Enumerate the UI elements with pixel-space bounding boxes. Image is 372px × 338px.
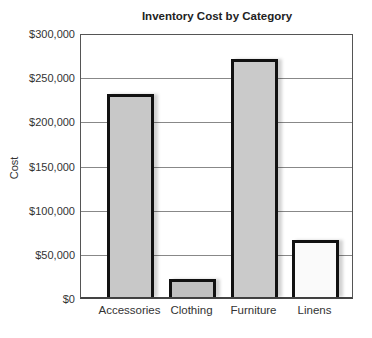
y-tick-label: $50,000 [35,249,75,261]
x-tick-label: Accessories [99,304,161,316]
y-tick-label: $150,000 [29,161,75,173]
y-tick-label: $250,000 [29,72,75,84]
chart-title: Inventory Cost by Category [80,10,354,22]
y-tick-label: $100,000 [29,205,75,217]
bar-accessories [107,94,154,297]
y-tick-label: $200,000 [29,116,75,128]
bar-linens [292,240,339,297]
bar-furniture [231,59,278,298]
y-axis-label: Cost [8,157,20,180]
x-tick-label: Linens [298,304,332,316]
y-tick-label: $0 [63,293,75,305]
y-tick-label: $300,000 [29,28,75,40]
bar-clothing [169,279,216,297]
x-tick-label: Clothing [170,304,212,316]
x-tick-label: Furniture [230,304,276,316]
gridline [81,78,352,79]
plot-area [80,34,353,299]
